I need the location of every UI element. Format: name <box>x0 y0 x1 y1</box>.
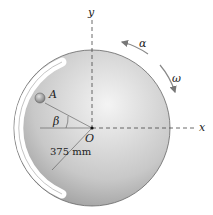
y-axis-label: y <box>87 6 95 19</box>
point-A-label: A <box>48 88 57 101</box>
radius-dimension-label: 375 mm <box>50 146 92 157</box>
origin-label: O <box>85 132 94 145</box>
origin-dot <box>90 126 93 129</box>
rotating-disk-diagram: y x O A β α ω 375 mm <box>0 0 213 215</box>
beta-label: β <box>52 115 59 128</box>
x-axis-label: x <box>199 121 206 134</box>
ball-A <box>35 93 45 103</box>
omega-label: ω <box>172 72 181 85</box>
alpha-label: α <box>139 37 147 50</box>
